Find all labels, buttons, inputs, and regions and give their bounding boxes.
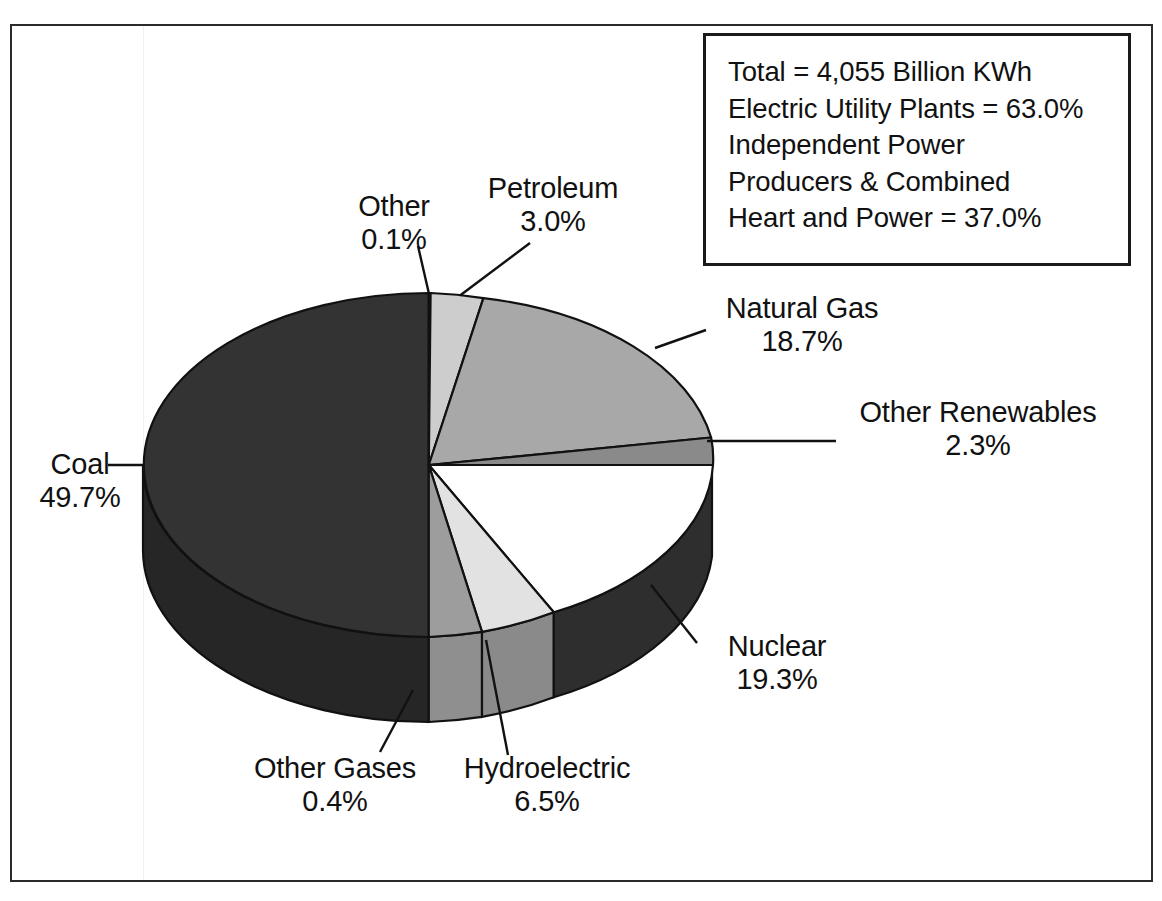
label-hydroelectric-value: 6.5% xyxy=(442,785,652,818)
label-other-renewables: Other Renewables 2.3% xyxy=(836,396,1120,462)
leader-petroleum xyxy=(460,243,530,296)
label-natural-gas-name: Natural Gas xyxy=(692,292,912,325)
label-other-value: 0.1% xyxy=(334,223,454,256)
label-natural-gas: Natural Gas 18.7% xyxy=(692,292,912,358)
label-other-renewables-name: Other Renewables xyxy=(836,396,1120,429)
label-natural-gas-value: 18.7% xyxy=(692,325,912,358)
label-hydroelectric: Hydroelectric 6.5% xyxy=(442,752,652,818)
label-other-name: Other xyxy=(334,190,454,223)
label-nuclear-value: 19.3% xyxy=(697,663,857,696)
label-petroleum: Petroleum 3.0% xyxy=(460,172,646,238)
label-petroleum-value: 3.0% xyxy=(460,205,646,238)
label-coal-value: 49.7% xyxy=(20,481,140,514)
label-nuclear: Nuclear 19.3% xyxy=(697,630,857,696)
label-nuclear-name: Nuclear xyxy=(697,630,857,663)
label-other-gases-name: Other Gases xyxy=(232,752,438,785)
label-other-renewables-value: 2.3% xyxy=(836,429,1120,462)
label-coal-name: Coal xyxy=(20,448,140,481)
label-other-gases-value: 0.4% xyxy=(232,785,438,818)
label-petroleum-name: Petroleum xyxy=(460,172,646,205)
other-gases-side-wall xyxy=(429,632,482,722)
label-coal: Coal 49.7% xyxy=(20,448,140,514)
label-other-gases: Other Gases 0.4% xyxy=(232,752,438,818)
label-other: Other 0.1% xyxy=(334,190,454,256)
label-hydroelectric-name: Hydroelectric xyxy=(442,752,652,785)
